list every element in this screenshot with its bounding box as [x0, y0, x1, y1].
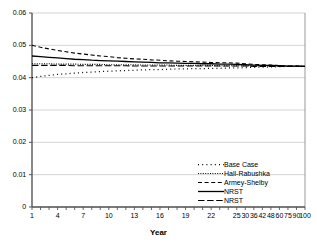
y-tick-label: 0.06 [0, 9, 26, 17]
y-tick-label: 0.01 [0, 171, 26, 179]
y-tick-label: 0 [0, 203, 26, 211]
x-tick-label: 30 [241, 212, 249, 220]
legend-item-4: NRST [198, 196, 310, 205]
legend-line-sample [198, 178, 224, 187]
legend-label: NRST [224, 187, 243, 196]
x-tick-label: 25 [233, 212, 241, 220]
x-axis-title: Year [0, 228, 317, 237]
x-tick-label: 16 [156, 212, 164, 220]
y-tick-label: 0.03 [0, 106, 26, 114]
x-tick-label: 42 [258, 212, 266, 220]
x-tick-label: 10 [105, 212, 113, 220]
chart-container: 00.010.020.030.040.050.06 14710131619222… [0, 0, 317, 246]
x-tick-label: 19 [182, 212, 190, 220]
y-tick-label: 0.05 [0, 41, 26, 49]
legend-label: Armey-Shelby [224, 178, 268, 187]
x-tick-label: 60 [276, 212, 284, 220]
series-line-3 [32, 56, 305, 66]
x-tick-label: 48 [267, 212, 275, 220]
x-tick-label: 1 [30, 212, 34, 220]
x-tick-label: 36 [250, 212, 258, 220]
legend-item-1: Hall-Rabushka [198, 169, 310, 178]
legend-line-sample [198, 196, 224, 205]
legend-line-sample [198, 187, 224, 196]
x-tick-label: 4 [56, 212, 60, 220]
legend-label: NRST [224, 196, 243, 205]
legend-line-sample [198, 169, 224, 178]
x-tick-label: 100 [299, 212, 311, 220]
series-line-0 [32, 66, 305, 77]
chart-legend: Base CaseHall-RabushkaArmey-ShelbyNRSTNR… [198, 160, 310, 205]
legend-label: Hall-Rabushka [224, 169, 270, 178]
legend-item-2: Armey-Shelby [198, 178, 310, 187]
x-tick-label: 13 [130, 212, 138, 220]
x-tick-label: 7 [81, 212, 85, 220]
legend-line-sample [198, 160, 224, 169]
legend-item-3: NRST [198, 187, 310, 196]
legend-item-0: Base Case [198, 160, 310, 169]
x-tick-label: 75 [284, 212, 292, 220]
chart-plot-area [0, 0, 317, 246]
y-tick-label: 0.04 [0, 74, 26, 82]
legend-label: Base Case [224, 160, 258, 169]
y-tick-label: 0.02 [0, 138, 26, 146]
x-tick-label: 22 [207, 212, 215, 220]
